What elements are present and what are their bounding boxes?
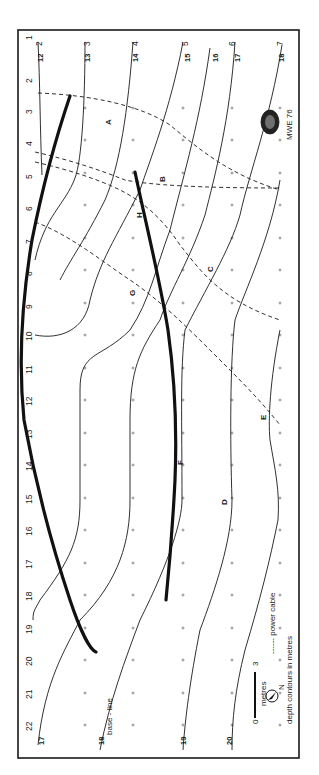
depth-label: 16: [211, 54, 220, 62]
site-letter: A: [104, 119, 113, 125]
route-right: [135, 172, 176, 600]
column-label: 7: [275, 41, 285, 46]
station-label: 5: [24, 174, 34, 179]
depth-label: 17: [37, 737, 46, 745]
station-label: 13: [24, 429, 34, 439]
contour-13: [35, 42, 85, 260]
station-label: 3: [24, 109, 34, 114]
baseline-label: base - line: [105, 698, 114, 735]
site-letter: D: [220, 499, 229, 505]
station-label: 20: [24, 656, 34, 666]
station-label: 17: [24, 559, 34, 569]
depth-label: 18: [277, 54, 286, 62]
station-label: 21: [24, 689, 34, 699]
column-label: 6: [227, 41, 237, 46]
scale-end: 3: [251, 661, 260, 666]
survey-routes: [21, 96, 176, 652]
station-label: 8: [24, 271, 34, 276]
survey-map: 12345678910111213141516171819202122 2345…: [0, 0, 319, 775]
signature-text: MWE 76: [285, 109, 294, 140]
station-label: 1: [24, 35, 34, 40]
site-letter: B: [158, 176, 167, 182]
contour-legend: depth contours in metres: [285, 636, 294, 724]
site-letter: G: [128, 290, 137, 296]
station-label: 4: [24, 141, 34, 146]
depth-labels-bottom: 17181920: [37, 737, 234, 745]
signature-block: MWE 76: [261, 109, 294, 140]
station-label: 10: [24, 331, 34, 341]
station-labels: 12345678910111213141516171819202122: [24, 35, 34, 731]
column-label: 5: [180, 41, 190, 46]
station-label: 9: [24, 304, 34, 309]
site-letters: ABCDEFGH: [104, 119, 268, 505]
legend: 0 3 metres N ------ power cable depth co…: [251, 592, 294, 724]
depth-label: 17: [233, 54, 242, 62]
column-label: 4: [130, 41, 140, 46]
site-letter: F: [176, 460, 185, 465]
column-label: 2: [34, 41, 44, 46]
map-frame: [18, 30, 299, 758]
station-label: 7: [24, 239, 34, 244]
station-label: 11: [24, 365, 34, 374]
depth-label: 20: [225, 737, 234, 745]
depth-label: 18: [97, 737, 106, 745]
column-label: 3: [82, 41, 92, 46]
depth-labels-top: 12131415161718: [36, 53, 286, 62]
depth-label: 19: [179, 737, 188, 745]
station-label: 19: [24, 624, 34, 634]
station-label: 18: [24, 591, 34, 601]
grid-crosses: [84, 107, 282, 727]
depth-label: 14: [131, 53, 140, 62]
station-label: 22: [24, 721, 34, 731]
contour-17-main: [38, 42, 235, 745]
cable-legend: ------ power cable: [268, 592, 277, 654]
site-letter: H: [135, 212, 144, 218]
station-label: 2: [24, 78, 34, 83]
site-letter: C: [206, 266, 215, 272]
depth-contours: [33, 42, 282, 750]
station-label: 6: [24, 206, 34, 211]
scale-start: 0: [251, 719, 260, 724]
contour-18: [100, 45, 282, 750]
station-label: 14: [24, 461, 34, 471]
cable-1: [38, 93, 280, 190]
depth-label: 12: [36, 54, 45, 62]
station-label: 15: [24, 494, 34, 504]
depth-label: 15: [183, 54, 192, 62]
contour-19: [183, 180, 280, 750]
depth-label: 13: [83, 54, 92, 62]
station-label: 16: [24, 526, 34, 536]
station-label: 12: [24, 396, 34, 406]
site-letter: E: [259, 414, 268, 420]
column-labels: 234567: [34, 41, 285, 46]
